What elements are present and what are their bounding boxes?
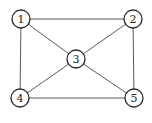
- edge-3-5: [76, 59, 134, 98]
- graph-diagram: 12345: [0, 0, 152, 123]
- node-label: 4: [17, 92, 24, 105]
- nodes-layer: 12345: [11, 10, 143, 107]
- node-3: 3: [67, 50, 85, 68]
- edge-2-3: [76, 19, 133, 59]
- node-4: 4: [11, 89, 29, 107]
- edge-2-5: [133, 19, 134, 98]
- edge-1-3: [21, 19, 76, 59]
- edge-3-4: [20, 59, 76, 98]
- node-2: 2: [124, 10, 142, 28]
- node-label: 5: [131, 92, 138, 105]
- node-label: 1: [18, 13, 25, 26]
- node-label: 3: [73, 53, 80, 66]
- node-5: 5: [125, 89, 143, 107]
- node-label: 2: [130, 13, 137, 26]
- node-1: 1: [12, 10, 30, 28]
- edge-1-4: [20, 19, 21, 98]
